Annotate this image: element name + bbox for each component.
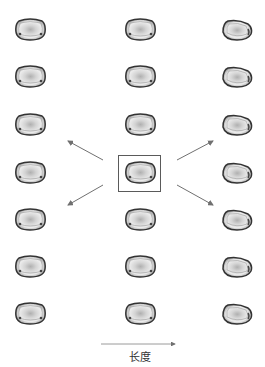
center-shape-1 — [125, 18, 156, 42]
right-shape-4 — [222, 161, 253, 185]
left-shape-1 — [15, 18, 46, 42]
arrow-up-right — [177, 141, 213, 160]
right-shape-2 — [222, 65, 253, 89]
arrow-down-left — [68, 185, 103, 205]
left-shape-2 — [15, 65, 46, 89]
axis-label-length: 长度 — [120, 348, 160, 364]
arrow-down-right — [177, 185, 213, 205]
center-shape-7 — [125, 302, 156, 326]
left-shape-7 — [15, 302, 46, 326]
left-shape-6 — [15, 255, 46, 279]
right-shape-5 — [222, 208, 253, 232]
right-shape-1 — [222, 18, 253, 42]
right-shape-6 — [222, 255, 253, 279]
center-shape-3 — [125, 113, 156, 137]
right-shape-7 — [222, 302, 253, 326]
left-shape-3 — [15, 113, 46, 137]
left-shape-5 — [15, 208, 46, 232]
highlight-box — [118, 155, 161, 192]
right-shape-3 — [222, 113, 253, 137]
arrow-up-left — [68, 141, 103, 160]
center-shape-2 — [125, 65, 156, 89]
center-shape-6 — [125, 255, 156, 279]
left-shape-4 — [15, 161, 46, 185]
center-shape-5 — [125, 208, 156, 232]
